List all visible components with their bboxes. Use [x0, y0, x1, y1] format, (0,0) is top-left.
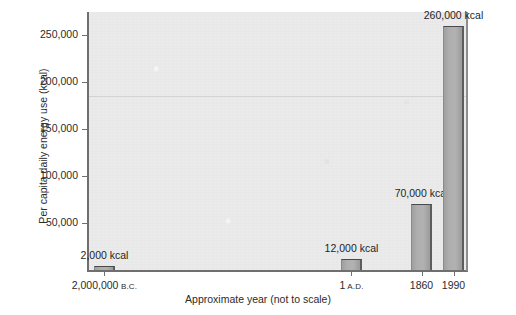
y-axis-tick — [82, 35, 88, 36]
x-axis-tick-label: 1860 — [410, 279, 433, 291]
x-axis-tick — [104, 271, 105, 276]
bar — [443, 26, 464, 270]
bar — [411, 204, 432, 270]
x-axis-tick-label: 2,000,000 B.C. — [72, 279, 138, 291]
y-axis-title: Per capita daily energy use (kcal) — [37, 41, 49, 251]
x-axis-tick — [351, 271, 352, 276]
x-axis-line — [87, 270, 468, 272]
panel-right-border — [466, 12, 468, 271]
y-axis-tick — [82, 129, 88, 130]
bar — [341, 259, 362, 270]
bar-value-label: 70,000 kcal — [395, 187, 449, 199]
y-axis-tick-label: 250,000 — [0, 28, 78, 40]
x-axis-title: Approximate year (not to scale) — [0, 293, 516, 305]
y-axis-line — [87, 12, 89, 271]
x-axis-tick-label: 1990 — [442, 279, 465, 291]
y-axis-tick — [82, 82, 88, 83]
bar-value-label: 2,000 kcal — [81, 249, 129, 261]
energy-use-bar-chart-figure: 50,000100,000150,000200,000250,000 2,000… — [0, 0, 516, 315]
scan-artifact-line — [88, 96, 467, 97]
x-axis-tick — [422, 271, 423, 276]
bar-value-label: 260,000 kcal — [424, 9, 484, 21]
x-axis-tick — [454, 271, 455, 276]
y-axis-tick — [82, 176, 88, 177]
bar-value-label: 12,000 kcal — [325, 242, 379, 254]
bar — [94, 266, 115, 270]
x-axis-tick-label: 1 A.D. — [339, 279, 363, 291]
y-axis-tick — [82, 223, 88, 224]
